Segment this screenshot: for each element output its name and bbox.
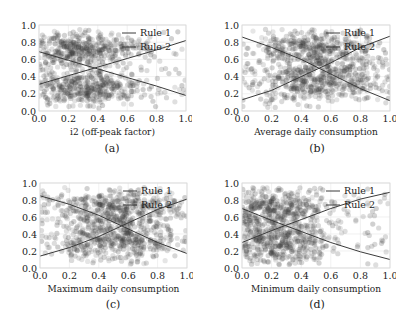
svg-text:0.6: 0.6 xyxy=(120,113,135,124)
scatter-points xyxy=(38,185,189,267)
svg-text:0.6: 0.6 xyxy=(323,270,338,281)
svg-text:1.0: 1.0 xyxy=(382,113,396,124)
svg-text:Rule 1: Rule 1 xyxy=(140,27,171,38)
scatter-plot-c: 0.00.20.40.60.81.00.00.20.40.60.81.0Maxi… xyxy=(6,175,193,300)
x-axis-label: Minimum daily consumption xyxy=(251,284,381,294)
svg-text:1.0: 1.0 xyxy=(224,20,239,31)
x-axis-label: i2 (off-peak factor) xyxy=(70,127,155,137)
scatter-plot-d: 0.00.20.40.60.81.00.00.20.40.60.81.0Mini… xyxy=(208,175,396,300)
svg-text:0.6: 0.6 xyxy=(224,212,239,223)
svg-text:Rule 1: Rule 1 xyxy=(141,185,172,196)
svg-text:0.2: 0.2 xyxy=(21,88,36,99)
scatter-plot-b: 0.00.20.40.60.81.00.00.20.40.60.81.0Aver… xyxy=(208,17,396,143)
svg-text:0.8: 0.8 xyxy=(224,195,239,206)
svg-text:0.6: 0.6 xyxy=(22,212,37,223)
svg-text:0.4: 0.4 xyxy=(294,270,309,281)
svg-text:1.0: 1.0 xyxy=(178,113,192,124)
svg-text:1.0: 1.0 xyxy=(21,20,36,31)
svg-text:Rule 1: Rule 1 xyxy=(344,27,375,38)
svg-text:0.2: 0.2 xyxy=(61,113,76,124)
svg-text:0.4: 0.4 xyxy=(22,229,37,240)
caption-b: (b) xyxy=(287,142,347,155)
svg-text:1.0: 1.0 xyxy=(22,178,37,189)
svg-text:0.0: 0.0 xyxy=(32,270,47,281)
x-axis-label: Average daily consumption xyxy=(253,127,378,137)
svg-text:0.8: 0.8 xyxy=(149,113,164,124)
caption-c: (c) xyxy=(83,298,143,311)
svg-text:0.4: 0.4 xyxy=(91,270,106,281)
svg-text:0.0: 0.0 xyxy=(234,113,249,124)
svg-text:0.4: 0.4 xyxy=(90,113,105,124)
svg-text:0.8: 0.8 xyxy=(21,37,36,48)
svg-text:0.8: 0.8 xyxy=(22,195,37,206)
svg-text:0.8: 0.8 xyxy=(353,270,368,281)
svg-text:Rule 2: Rule 2 xyxy=(140,41,171,52)
svg-text:0.6: 0.6 xyxy=(121,270,136,281)
svg-text:1.0: 1.0 xyxy=(224,178,239,189)
scatter-points xyxy=(36,27,188,111)
svg-text:0.8: 0.8 xyxy=(353,113,368,124)
svg-text:Rule 2: Rule 2 xyxy=(344,199,375,210)
x-axis-label: Maximum daily consumption xyxy=(48,284,180,294)
svg-text:1.0: 1.0 xyxy=(382,270,396,281)
svg-text:0.2: 0.2 xyxy=(224,88,239,99)
svg-text:1.0: 1.0 xyxy=(179,270,193,281)
scatter-points xyxy=(240,27,393,110)
svg-text:0.4: 0.4 xyxy=(224,71,239,82)
svg-text:0.0: 0.0 xyxy=(234,270,249,281)
svg-text:Rule 2: Rule 2 xyxy=(344,41,375,52)
svg-text:Rule 1: Rule 1 xyxy=(344,185,375,196)
svg-text:0.2: 0.2 xyxy=(224,246,239,257)
caption-d: (d) xyxy=(287,298,347,311)
svg-text:Rule 2: Rule 2 xyxy=(141,199,172,210)
svg-text:0.2: 0.2 xyxy=(264,270,279,281)
caption-a: (a) xyxy=(82,142,142,155)
svg-text:0.2: 0.2 xyxy=(62,270,77,281)
svg-text:0.4: 0.4 xyxy=(21,71,36,82)
svg-text:0.8: 0.8 xyxy=(224,37,239,48)
svg-text:0.6: 0.6 xyxy=(21,54,36,65)
svg-text:0.6: 0.6 xyxy=(323,113,338,124)
svg-text:0.4: 0.4 xyxy=(224,229,239,240)
svg-text:0.8: 0.8 xyxy=(150,270,165,281)
svg-text:0.6: 0.6 xyxy=(224,54,239,65)
svg-text:0.2: 0.2 xyxy=(264,113,279,124)
scatter-plot-a: 0.00.20.40.60.81.00.00.20.40.60.81.0i2 (… xyxy=(5,17,192,143)
svg-text:0.4: 0.4 xyxy=(294,113,309,124)
svg-text:0.2: 0.2 xyxy=(22,246,37,257)
svg-text:0.0: 0.0 xyxy=(31,113,46,124)
